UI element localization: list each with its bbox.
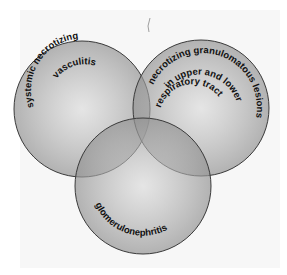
venn-diagram: systemic necrotizing vasculitis necrotiz… <box>0 0 287 275</box>
